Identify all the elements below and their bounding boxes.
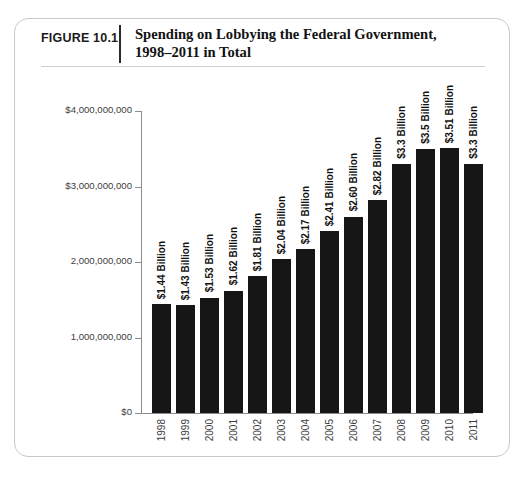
y-tick-label: $0	[121, 406, 132, 417]
x-tick-label: 1998	[156, 419, 167, 441]
bar-group[interactable]: $1.62 Billion2001	[221, 93, 245, 413]
bar-group[interactable]: $2.04 Billion2003	[269, 93, 293, 413]
y-tick-label: 2,000,000,000	[71, 255, 132, 266]
bar-chart: $01,000,000,0002,000,000,000$3,000,000,0…	[15, 19, 509, 456]
bar-group[interactable]: $1.81 Billion2002	[245, 93, 269, 413]
bar-group[interactable]: $3.51 Billion2010	[437, 93, 461, 413]
y-tick-label: $3,000,000,000	[65, 180, 132, 191]
bar-value-label: $2.17 Billion	[300, 186, 311, 244]
figure-card: FIGURE 10.1 Spending on Lobbying the Fed…	[14, 18, 510, 457]
bar-value-label: $1.44 Billion	[156, 241, 167, 299]
bar-value-label: $1.53 Billion	[204, 234, 215, 292]
x-tick-label: 2011	[468, 419, 479, 441]
x-tick-label: 2002	[252, 419, 263, 441]
bar[interactable]	[248, 276, 267, 413]
bar-group[interactable]: $2.41 Billion2005	[317, 93, 341, 413]
bar-value-label: $3.3 Billion	[468, 106, 479, 159]
bar[interactable]	[200, 298, 219, 414]
bar-value-label: $1.43 Billion	[180, 242, 191, 300]
bar-group[interactable]: $2.60 Billion2006	[341, 93, 365, 413]
bar-group[interactable]: $3.3 Billion2011	[461, 93, 485, 413]
bar[interactable]	[296, 249, 315, 413]
bar[interactable]	[176, 305, 195, 413]
bar[interactable]	[440, 148, 459, 413]
bar[interactable]	[368, 200, 387, 413]
x-tick-label: 2001	[228, 419, 239, 441]
bar-value-label: $2.60 Billion	[348, 153, 359, 211]
bar-value-label: $1.81 Billion	[252, 213, 263, 271]
bar-value-label: $2.41 Billion	[324, 168, 335, 226]
y-tick-mark	[135, 413, 141, 414]
bar-value-label: $2.04 Billion	[276, 196, 287, 254]
x-tick-label: 2000	[204, 419, 215, 441]
x-axis-line	[141, 413, 473, 414]
y-tick-label: $4,000,000,000	[65, 104, 132, 115]
bar-series: $1.44 Billion1998$1.43 Billion1999$1.53 …	[141, 93, 471, 413]
x-tick-label: 2008	[396, 419, 407, 441]
bar[interactable]	[224, 291, 243, 413]
bar-group[interactable]: $3.5 Billion2009	[413, 93, 437, 413]
bar-group[interactable]: $2.17 Billion2004	[293, 93, 317, 413]
bar[interactable]	[464, 164, 483, 413]
bar[interactable]	[344, 217, 363, 413]
plot-area: $01,000,000,0002,000,000,000$3,000,000,0…	[141, 93, 471, 413]
bar-value-label: $2.82 Billion	[372, 137, 383, 195]
bar[interactable]	[272, 259, 291, 413]
bar[interactable]	[320, 231, 339, 413]
bar-group[interactable]: $3.3 Billion2008	[389, 93, 413, 413]
bar-value-label: $1.62 Billion	[228, 227, 239, 285]
bar-group[interactable]: $1.44 Billion1998	[149, 93, 173, 413]
bar-value-label: $3.3 Billion	[396, 106, 407, 159]
bar-group[interactable]: $2.82 Billion2007	[365, 93, 389, 413]
x-tick-label: 2003	[276, 419, 287, 441]
x-tick-label: 2006	[348, 419, 359, 441]
x-tick-label: 2004	[300, 419, 311, 441]
x-tick-label: 2010	[444, 419, 455, 441]
x-tick-label: 2005	[324, 419, 335, 441]
bar-value-label: $3.51 Billion	[444, 85, 455, 143]
bar[interactable]	[416, 149, 435, 413]
bar[interactable]	[152, 304, 171, 413]
x-tick-label: 1999	[180, 419, 191, 441]
y-tick-label: 1,000,000,000	[71, 331, 132, 342]
bar-group[interactable]: $1.53 Billion2000	[197, 93, 221, 413]
bar-value-label: $3.5 Billion	[420, 91, 431, 144]
bar-group[interactable]: $1.43 Billion1999	[173, 93, 197, 413]
x-tick-label: 2009	[420, 419, 431, 441]
bar[interactable]	[392, 164, 411, 413]
x-tick-label: 2007	[372, 419, 383, 441]
